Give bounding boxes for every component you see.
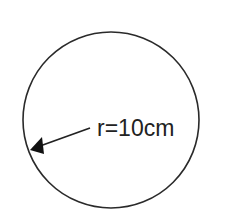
- circle-diagram: r=10cm: [0, 0, 226, 222]
- radius-label: r=10cm: [97, 115, 174, 141]
- radius-arrowhead-icon: [30, 137, 44, 154]
- radius-arrow-shaft: [40, 128, 90, 146]
